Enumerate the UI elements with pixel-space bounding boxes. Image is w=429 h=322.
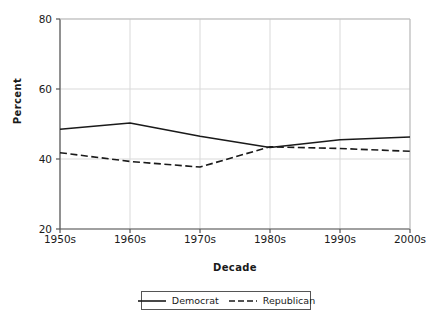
legend-item-democrat: Democrat bbox=[137, 295, 219, 306]
plot-area bbox=[0, 0, 429, 322]
legend-swatch-solid-icon bbox=[137, 296, 167, 306]
x-tick-label: 1980s bbox=[240, 233, 300, 245]
x-tick-label: 1950s bbox=[30, 233, 90, 245]
x-tick-label: 1960s bbox=[100, 233, 160, 245]
legend-label: Democrat bbox=[172, 295, 219, 306]
legend-label: Republican bbox=[263, 295, 315, 306]
legend-item-republican: Republican bbox=[228, 295, 315, 306]
x-tick-label: 1990s bbox=[310, 233, 370, 245]
x-axis-title: Decade bbox=[55, 262, 415, 273]
line-chart: Percent 80 60 40 20 1950s1960s1970s1980s… bbox=[0, 0, 429, 322]
x-tick-label: 2000s bbox=[380, 233, 429, 245]
chart-legend: Democrat Republican bbox=[141, 291, 311, 310]
x-tick-label: 1970s bbox=[170, 233, 230, 245]
legend-swatch-dashed-icon bbox=[228, 296, 258, 306]
